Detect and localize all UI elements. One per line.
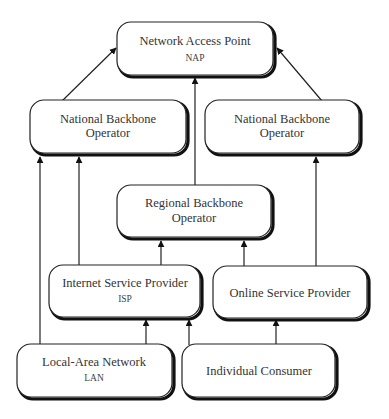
node-lan: Local-Area Network LAN xyxy=(17,344,174,399)
node-label: Network Access Point xyxy=(139,34,251,48)
node-sublabel: LAN xyxy=(84,373,104,383)
node-label: Online Service Provider xyxy=(230,286,352,300)
node-label-line2: Operator xyxy=(86,126,131,140)
node-isp: Internet Service Provider ISP xyxy=(49,265,202,319)
node-nap: Network Access Point NAP xyxy=(117,22,275,77)
node-label: Individual Consumer xyxy=(206,364,313,378)
node-sublabel: NAP xyxy=(185,53,204,63)
node-label: National Backbone xyxy=(60,112,157,126)
node-online-service-provider: Online Service Provider xyxy=(213,266,369,320)
node-national-backbone-right: National Backbone Operator xyxy=(205,100,361,155)
node-individual-consumer: Individual Consumer xyxy=(182,344,337,399)
node-label: Regional Backbone xyxy=(145,196,244,210)
network-hierarchy-diagram: Network Access Point NAP National Backbo… xyxy=(0,0,389,419)
node-label-line2: Operator xyxy=(260,126,305,140)
node-national-backbone-left: National Backbone Operator xyxy=(30,100,188,155)
edge-nbo-left-to-nap xyxy=(62,48,116,101)
node-regional-backbone: Regional Backbone Operator xyxy=(117,185,273,239)
node-sublabel: ISP xyxy=(118,294,132,304)
edge-nbo-right-to-nap xyxy=(277,48,322,101)
node-label: Local-Area Network xyxy=(42,355,147,369)
node-label: Internet Service Provider xyxy=(62,276,188,290)
node-label: National Backbone xyxy=(234,112,331,126)
node-label-line2: Operator xyxy=(172,211,217,225)
